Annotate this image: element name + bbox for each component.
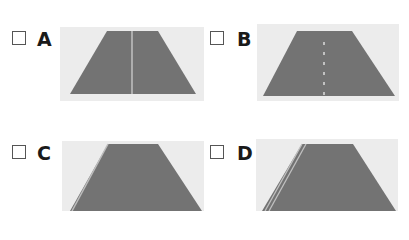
option-letter-c: C <box>37 144 51 163</box>
road-double-edgeline-icon <box>256 139 398 211</box>
checkbox-d[interactable] <box>210 145 224 159</box>
road-image-a <box>60 27 204 101</box>
option-letter-d: D <box>237 144 253 163</box>
road-dashed-centerline-icon <box>257 24 399 101</box>
road-image-c <box>62 141 204 211</box>
option-letter-b: B <box>237 30 251 49</box>
option-letter-a: A <box>37 30 52 49</box>
road-image-d <box>256 139 398 211</box>
checkbox-b[interactable] <box>210 31 224 45</box>
checkbox-c[interactable] <box>12 145 26 159</box>
road-single-edgeline-icon <box>62 141 204 211</box>
road-image-b <box>257 24 399 101</box>
road-solid-centerline-icon <box>60 27 204 101</box>
checkbox-a[interactable] <box>12 31 26 45</box>
